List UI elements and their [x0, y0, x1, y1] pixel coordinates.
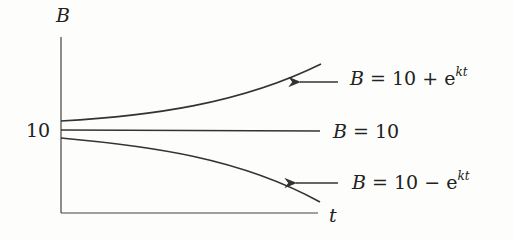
- label-lower-sup: kt: [457, 169, 469, 183]
- curve-upper: [61, 64, 321, 121]
- curve-lower: [61, 138, 320, 202]
- y-tick-label: 10: [26, 121, 50, 140]
- diagram-canvas: [0, 0, 513, 240]
- label-upper-lhs: B: [350, 67, 364, 89]
- label-upper-eq: = 10 + e: [364, 67, 455, 89]
- curve-middle: [61, 130, 320, 131]
- label-lower-eq: = 10 − e: [366, 171, 457, 193]
- label-lower-lhs: B: [352, 171, 366, 193]
- label-middle-eq: = 10: [347, 120, 399, 142]
- y-axis-label: B: [56, 6, 70, 25]
- label-upper: B = 10 + ekt: [350, 68, 467, 88]
- label-upper-sup: kt: [455, 65, 467, 79]
- label-middle: B = 10: [333, 122, 399, 141]
- label-middle-lhs: B: [333, 120, 347, 142]
- label-lower: B = 10 − ekt: [352, 172, 469, 192]
- x-axis-label: t: [329, 206, 337, 225]
